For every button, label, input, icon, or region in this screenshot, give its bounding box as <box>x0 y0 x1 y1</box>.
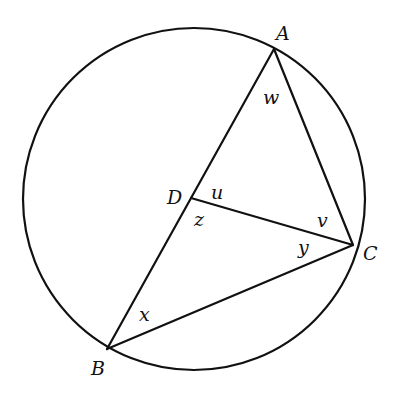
point-label-c: C <box>363 242 378 264</box>
angle-label-v: v <box>317 209 328 231</box>
point-label-b: B <box>90 357 105 379</box>
angle-label-x: x <box>139 303 150 325</box>
angle-label-z: z <box>193 208 205 230</box>
point-label-a: A <box>274 22 290 44</box>
angle-label-w: w <box>263 86 279 108</box>
segment-ab <box>107 49 274 349</box>
angle-label-u: u <box>211 181 223 203</box>
segment-dc <box>191 198 353 245</box>
segment-ac <box>274 49 353 245</box>
geometry-diagram: A B C D w u z v y x <box>0 0 395 397</box>
segment-bc <box>107 245 353 349</box>
angle-label-y: y <box>297 236 309 258</box>
point-label-d: D <box>166 186 182 208</box>
